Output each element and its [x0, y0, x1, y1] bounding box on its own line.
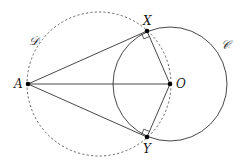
point-o — [168, 82, 173, 87]
label-a: A — [13, 77, 23, 91]
label-o: O — [176, 77, 186, 91]
point-a — [26, 82, 31, 87]
label-circle-c: 𝒞 — [221, 38, 233, 52]
label-x: X — [142, 14, 152, 28]
segment-yo — [147, 84, 170, 137]
segment-xo — [147, 31, 170, 84]
segment-ax — [28, 31, 147, 84]
point-y — [145, 135, 150, 140]
label-y: Y — [143, 142, 152, 156]
label-circle-d: 𝒟 — [29, 34, 41, 48]
point-x — [145, 29, 150, 34]
geometry-diagram: A X O Y 𝒞 𝒟 — [0, 0, 243, 165]
segment-ay — [28, 84, 147, 137]
